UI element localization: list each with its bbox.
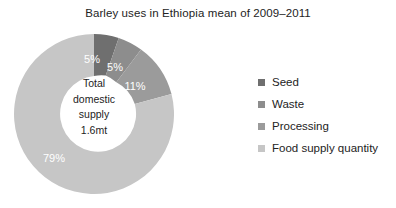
- legend-item-waste[interactable]: Waste: [258, 93, 394, 115]
- legend-label-waste: Waste: [272, 98, 304, 110]
- center-line-3: supply: [56, 107, 132, 123]
- slice-label-food-supply-quantity: 79%: [43, 152, 65, 164]
- legend-swatch-seed: [258, 79, 265, 86]
- donut-center-annotation: Total domestic supply 1.6mt: [56, 76, 132, 138]
- donut-chart-figure: Barley uses in Ethiopia mean of 2009–201…: [0, 0, 396, 208]
- chart-legend: Seed Waste Processing Food supply quanti…: [258, 71, 394, 159]
- slice-label-seed: 5%: [84, 53, 100, 65]
- chart-title: Barley uses in Ethiopia mean of 2009–201…: [0, 7, 396, 19]
- legend-label-seed: Seed: [272, 76, 299, 88]
- legend-swatch-waste: [258, 101, 265, 108]
- legend-label-food-supply-quantity: Food supply quantity: [272, 142, 378, 154]
- legend-swatch-processing: [258, 123, 265, 130]
- legend-item-processing[interactable]: Processing: [258, 115, 394, 137]
- legend-label-processing: Processing: [272, 120, 329, 132]
- center-line-2: domestic: [56, 92, 132, 108]
- slice-label-waste: 5%: [107, 61, 123, 73]
- center-line-1: Total: [56, 76, 132, 92]
- legend-item-food-supply-quantity[interactable]: Food supply quantity: [258, 137, 394, 159]
- legend-item-seed[interactable]: Seed: [258, 71, 394, 93]
- legend-swatch-food-supply-quantity: [258, 145, 265, 152]
- center-line-4: 1.6mt: [56, 123, 132, 139]
